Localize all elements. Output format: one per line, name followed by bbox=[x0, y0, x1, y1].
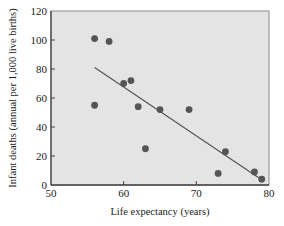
y-tick-label: 40 bbox=[36, 121, 48, 133]
data-point bbox=[157, 106, 164, 113]
plot-area bbox=[51, 11, 269, 185]
scatter-chart: 020406080100120 50607080 Life expectancy… bbox=[0, 0, 284, 226]
y-tick-label: 120 bbox=[31, 5, 48, 17]
x-tick-label: 60 bbox=[118, 187, 130, 199]
y-axis: 020406080100120 bbox=[31, 5, 56, 191]
y-tick-label: 60 bbox=[36, 92, 48, 104]
data-point bbox=[128, 77, 135, 84]
data-point bbox=[215, 170, 222, 177]
data-point bbox=[186, 106, 193, 113]
data-point bbox=[142, 145, 149, 152]
y-tick-label: 80 bbox=[36, 63, 48, 75]
data-point bbox=[135, 103, 142, 110]
data-point bbox=[120, 80, 127, 87]
data-point bbox=[91, 35, 98, 42]
data-point bbox=[251, 169, 258, 176]
x-tick-label: 70 bbox=[191, 187, 203, 199]
y-axis-title: Infant deaths (annual per 1,000 live bir… bbox=[7, 8, 19, 188]
x-tick-label: 50 bbox=[46, 187, 58, 199]
x-tick-label: 80 bbox=[264, 187, 276, 199]
y-tick-label: 20 bbox=[36, 150, 48, 162]
data-point bbox=[258, 176, 265, 183]
y-tick-label: 100 bbox=[31, 34, 48, 46]
x-axis-title: Life expectancy (years) bbox=[110, 206, 210, 218]
data-point bbox=[91, 102, 98, 109]
data-point bbox=[106, 38, 113, 45]
data-point bbox=[222, 148, 229, 155]
